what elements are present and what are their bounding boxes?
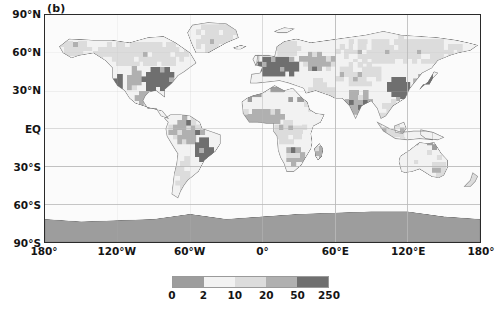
colorbar-swatch-2 bbox=[235, 277, 266, 287]
x-tick-3: 0° bbox=[256, 245, 269, 257]
figure-panel-b: (b) 90°N60°N30°NEQ30°S60°S90°S 180°120°W… bbox=[0, 0, 496, 313]
x-tick-1: 120°W bbox=[97, 245, 136, 257]
y-tick-60: 60°N bbox=[1, 46, 41, 58]
y-tick-0: EQ bbox=[1, 123, 41, 135]
colorbar-swatch-1 bbox=[204, 277, 235, 287]
x-tick-6: 180° bbox=[467, 245, 494, 257]
x-tick-4: 60°E bbox=[322, 245, 349, 257]
colorbar bbox=[172, 276, 329, 288]
colorbar-tick-3: 20 bbox=[259, 289, 274, 301]
x-tick-0: 180° bbox=[30, 245, 57, 257]
colorbar-tick-1: 2 bbox=[200, 289, 207, 301]
colorbar-tick-4: 50 bbox=[290, 289, 305, 301]
y-tick-90: 90°N bbox=[1, 8, 41, 20]
x-tick-5: 120°E bbox=[391, 245, 425, 257]
colorbar-swatch-0 bbox=[173, 277, 204, 287]
colorbar-tick-5: 250 bbox=[318, 289, 340, 301]
y-tick-30: 30°N bbox=[1, 84, 41, 96]
colorbar-tick-2: 10 bbox=[227, 289, 242, 301]
y-axis-tick-labels: 90°N60°N30°NEQ30°S60°S90°S bbox=[0, 0, 41, 313]
global-heatmap-canvas bbox=[45, 15, 480, 242]
colorbar-swatch-3 bbox=[266, 277, 297, 287]
map-plot-area bbox=[44, 14, 481, 243]
y-tick--60: 60°S bbox=[1, 199, 41, 211]
x-tick-2: 60°W bbox=[174, 245, 205, 257]
y-tick--30: 30°S bbox=[1, 161, 41, 173]
colorbar-swatch-4 bbox=[297, 277, 328, 287]
colorbar-tick-0: 0 bbox=[168, 289, 175, 301]
